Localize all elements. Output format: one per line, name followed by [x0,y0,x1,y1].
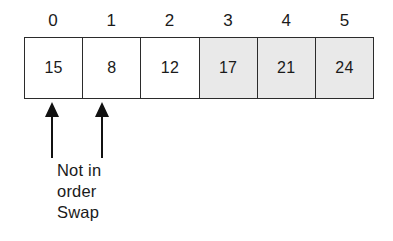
array-index-label-3: 3 [199,8,257,34]
annotation-text: Not in order Swap [57,160,101,223]
array-index-label-row: 0 1 2 3 4 5 [24,8,374,34]
arrow-stem [101,115,103,158]
annotation-line-2: order [57,181,101,202]
up-arrow-icon-index-1 [95,102,109,158]
array-cell-3: 17 [200,38,258,98]
array-index-label-2: 2 [141,8,199,34]
array-cell-4: 21 [258,38,316,98]
array-index-label-4: 4 [257,8,315,34]
up-arrow-icon-index-0 [45,102,59,158]
array-index-label-1: 1 [82,8,140,34]
array-cell-0: 15 [25,38,83,98]
array-index-label-0: 0 [24,8,82,34]
annotation-line-1: Not in [57,160,101,181]
array-index-label-5: 5 [316,8,374,34]
array-swap-diagram: 0 1 2 3 4 5 15 8 12 17 21 24 Not in orde… [0,0,393,241]
array-cell-2: 12 [141,38,199,98]
arrow-stem [51,115,53,158]
annotation-line-3: Swap [57,202,101,223]
array-cell-5: 24 [316,38,373,98]
array-container: 15 8 12 17 21 24 [24,37,374,99]
array-cell-1: 8 [83,38,141,98]
